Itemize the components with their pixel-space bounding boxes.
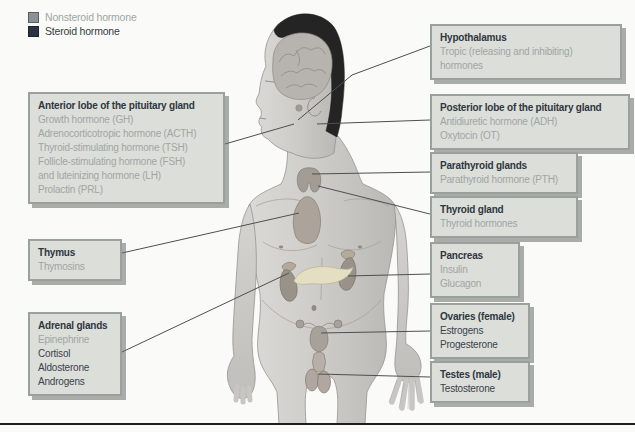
pancreas-box: Pancreas Insulin Glucagon xyxy=(430,242,520,298)
nonsteroid-swatch-icon xyxy=(28,12,39,23)
steroid-swatch-icon xyxy=(28,26,39,37)
adrenal-glands-box: Adrenal glands Epinephrine Cortisol Aldo… xyxy=(28,312,122,396)
hormone-line: Growth hormone (GH) xyxy=(38,113,215,127)
hormone-line: Thymosins xyxy=(38,260,112,274)
hormone-line: Aldosterone xyxy=(38,361,112,375)
hormone-line: Progesterone xyxy=(440,338,520,352)
legend-label: Nonsteroid hormone xyxy=(45,11,137,23)
box-title: Parathyroid glands xyxy=(440,159,568,173)
adrenal-gland-right xyxy=(341,250,355,259)
hormone-line: Androgens xyxy=(38,375,112,389)
box-title: Thymus xyxy=(38,246,112,260)
legend: Nonsteroid hormone Steroid hormone xyxy=(28,10,137,38)
posterior-pituitary-box: Posterior lobe of the pituitary gland An… xyxy=(430,94,630,150)
hormone-line: Epinephrine xyxy=(38,333,112,347)
hormone-line: Prolactin (PRL) xyxy=(38,183,215,197)
hormone-line: Antidiuretic hormone (ADH) xyxy=(440,115,620,129)
legend-item-steroid: Steroid hormone xyxy=(28,24,137,38)
hormone-line: Thyroid hormones xyxy=(440,217,568,231)
hormone-line: Parathyroid hormone (PTH) xyxy=(440,173,568,187)
hormone-line: Tropic (releasing and inhibiting) hormon… xyxy=(440,45,612,73)
box-title: Testes (male) xyxy=(440,368,520,382)
anterior-pituitary-box: Anterior lobe of the pituitary gland Gro… xyxy=(28,92,225,204)
endocrine-diagram: Nonsteroid hormone Steroid hormone Anter… xyxy=(0,0,635,432)
box-title: Hypothalamus xyxy=(440,31,612,45)
hormone-line: Insulin xyxy=(440,263,510,277)
hormone-line: Estrogens xyxy=(440,324,520,338)
hormone-line: Cortisol xyxy=(38,347,112,361)
box-title: Adrenal glands xyxy=(38,319,112,333)
ovaries-box: Ovaries (female) Estrogens Progesterone xyxy=(430,303,530,359)
legend-label: Steroid hormone xyxy=(45,25,120,37)
hormone-line: Glucagon xyxy=(440,277,510,291)
testes-box: Testes (male) Testosterone xyxy=(430,361,530,403)
pituitary-gland xyxy=(296,105,302,111)
hypothalamus-box: Hypothalamus Tropic (releasing and inhib… xyxy=(430,24,622,80)
hormone-line: Oxytocin (OT) xyxy=(440,129,620,143)
head xyxy=(256,14,344,158)
thymus-box: Thymus Thymosins xyxy=(28,239,122,281)
box-title: Thyroid gland xyxy=(440,203,568,217)
box-title: Ovaries (female) xyxy=(440,310,520,324)
brain xyxy=(273,33,332,100)
hormone-line: Follicle-stimulating hormone (FSH) xyxy=(38,155,215,169)
hormone-line: Adrenocorticotropic hormone (ACTH) xyxy=(38,127,215,141)
box-title: Anterior lobe of the pituitary gland xyxy=(38,99,215,113)
thyroid-gland-box: Thyroid gland Thyroid hormones xyxy=(430,196,578,238)
parathyroid-glands-box: Parathyroid glands Parathyroid hormone (… xyxy=(430,152,578,194)
hormone-line: and luteinizing hormone (LH) xyxy=(38,169,215,183)
hormone-line: Testosterone xyxy=(440,382,520,396)
legend-item-nonsteroid: Nonsteroid hormone xyxy=(28,10,137,24)
hormone-line: Thyroid-stimulating hormone (TSH) xyxy=(38,141,215,155)
box-title: Posterior lobe of the pituitary gland xyxy=(440,101,620,115)
box-title: Pancreas xyxy=(440,249,510,263)
